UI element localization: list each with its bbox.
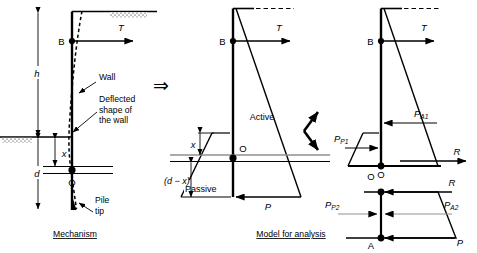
label-deflected-line2: shape of — [99, 105, 133, 115]
lr-label-force-p: P — [457, 237, 464, 248]
lr-label-point-o: O — [377, 169, 384, 180]
model-label-point-o: O — [239, 143, 246, 154]
ur-label-pp1: PP1 — [334, 133, 349, 145]
lr-label-point-a: A — [368, 240, 375, 251]
label-dim-d: d — [34, 168, 40, 179]
label-deflected-line3: the wall — [99, 115, 128, 125]
ur-passive-hypotenuse — [348, 133, 363, 166]
panel-mechanism: T B O h d x Wall Deflected shape of the … — [0, 11, 157, 239]
panel-model: T B Active Passive O x (d − x) P Model f… — [164, 9, 330, 240]
excavation-ground-hatch — [2, 138, 32, 143]
ur-label-force-r: R — [454, 146, 461, 157]
model-label-force-p: P — [265, 201, 272, 212]
model-label-dim-dx: (d − x) — [164, 176, 190, 186]
label-point-o: O — [68, 177, 75, 188]
ur-label-point-o: O — [367, 171, 374, 182]
node-o — [68, 166, 75, 173]
model-label-force-t: T — [276, 22, 283, 33]
lr-label-force-r: R — [449, 177, 456, 188]
top-ground-hatch — [110, 12, 147, 17]
split-arrow-down — [304, 131, 318, 150]
label-point-b: B — [58, 36, 64, 47]
active-pressure-hypotenuse — [236, 9, 301, 198]
label-deflected-line1: Deflected — [99, 94, 136, 104]
ur-label-pa1: PA1 — [414, 108, 429, 120]
model-label-dim-x: x — [190, 139, 197, 150]
label-pile-tip-line2: tip — [95, 206, 104, 216]
model-label-point-b: B — [219, 36, 225, 47]
label-wall: Wall — [99, 72, 115, 82]
leader-pile-tip — [79, 203, 93, 212]
lr-pressure-trapezoid — [346, 192, 456, 238]
split-arrow-up — [304, 112, 318, 131]
lr-label-pa2: PA2 — [444, 199, 459, 211]
ur-active-hypotenuse — [384, 9, 438, 167]
label-active: Active — [250, 112, 275, 122]
ur-label-point-b: B — [367, 36, 373, 47]
label-dim-x: x — [61, 148, 68, 159]
panel-lower-right: O R PA2 PP2 P A — [325, 169, 464, 251]
label-force-t: T — [118, 22, 125, 33]
implies-arrow-icon: ⇒ — [153, 75, 169, 96]
label-pile-tip-line1: Pile — [95, 195, 110, 205]
leader-deflected-shape — [73, 112, 97, 132]
label-dim-h: h — [34, 68, 39, 79]
caption-mechanism: Mechanism — [53, 229, 97, 239]
model-node-o — [229, 154, 236, 161]
ur-label-force-t: T — [421, 22, 428, 33]
lr-node-a — [378, 235, 385, 242]
caption-model: Model for analysis — [256, 229, 325, 239]
lr-node-o — [378, 189, 385, 196]
panel-upper-right: T B PA1 PP1 R O — [334, 9, 466, 183]
split-arrow-icon — [304, 112, 318, 150]
leader-wall — [79, 82, 96, 93]
lr-label-pp2: PP2 — [325, 199, 340, 211]
sheet-pile-figure: T B O h d x Wall Deflected shape of the … — [0, 0, 477, 253]
